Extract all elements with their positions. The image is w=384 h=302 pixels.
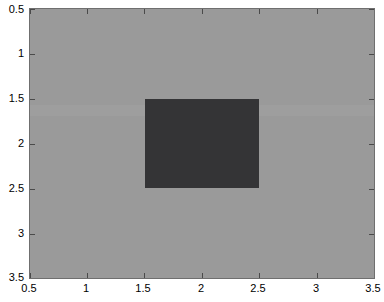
y-tick-right-5 xyxy=(369,234,374,235)
x-tick-bottom-4 xyxy=(259,273,260,278)
y-tick-left-0 xyxy=(30,9,35,10)
y-tick-left-2 xyxy=(30,99,35,100)
y-tick-right-0 xyxy=(369,9,374,10)
y-tick-left-3 xyxy=(30,144,35,145)
y-tick-label-6: 3.5 xyxy=(0,272,24,283)
y-tick-label-3: 2 xyxy=(0,138,24,149)
y-tick-right-4 xyxy=(369,189,374,190)
figure-canvas: 0.5 1 1.5 2 2.5 3 3.5 0.5 1 1.5 2 2.5 3 … xyxy=(0,0,384,302)
y-tick-label-0: 0.5 xyxy=(0,4,24,15)
x-tick-bottom-2 xyxy=(144,273,145,278)
dark-block-region xyxy=(145,99,260,189)
y-tick-right-2 xyxy=(369,99,374,100)
y-tick-left-5 xyxy=(30,234,35,235)
x-tick-top-1 xyxy=(87,9,88,14)
y-tick-left-6 xyxy=(30,278,35,279)
x-tick-label-2: 1.5 xyxy=(135,283,150,294)
x-tick-top-4 xyxy=(259,9,260,14)
x-tick-bottom-5 xyxy=(317,273,318,278)
x-tick-label-6: 3.5 xyxy=(365,283,380,294)
x-tick-top-6 xyxy=(374,9,375,14)
x-tick-bottom-1 xyxy=(87,273,88,278)
x-tick-top-2 xyxy=(144,9,145,14)
plot-axes[interactable] xyxy=(29,8,375,279)
x-tick-label-3: 2 xyxy=(198,283,204,294)
y-tick-label-5: 3 xyxy=(0,228,24,239)
x-tick-label-4: 2.5 xyxy=(250,283,265,294)
x-tick-top-5 xyxy=(317,9,318,14)
y-tick-label-1: 1 xyxy=(0,48,24,59)
y-tick-label-4: 2.5 xyxy=(0,183,24,194)
y-tick-right-1 xyxy=(369,54,374,55)
y-tick-label-2: 1.5 xyxy=(0,93,24,104)
y-tick-right-6 xyxy=(369,278,374,279)
x-tick-label-5: 3 xyxy=(313,283,319,294)
x-tick-top-3 xyxy=(202,9,203,14)
y-tick-right-3 xyxy=(369,144,374,145)
y-tick-left-1 xyxy=(30,54,35,55)
x-tick-label-0: 0.5 xyxy=(21,283,36,294)
x-tick-bottom-3 xyxy=(202,273,203,278)
y-tick-left-4 xyxy=(30,189,35,190)
x-tick-bottom-6 xyxy=(374,273,375,278)
x-tick-label-1: 1 xyxy=(83,283,89,294)
